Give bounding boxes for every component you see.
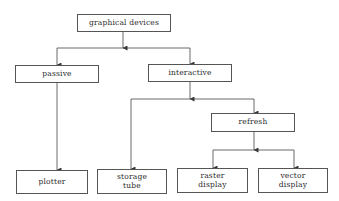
node-storage-tube: storage tube (97, 169, 167, 194)
node-vector-display: vector display (258, 168, 328, 193)
node-raster-display: raster display (177, 168, 248, 193)
node-graphical-devices: graphical devices (77, 14, 171, 32)
node-refresh: refresh (211, 113, 295, 132)
node-passive: passive (15, 65, 99, 83)
node-plotter: plotter (16, 170, 88, 194)
node-interactive: interactive (148, 64, 232, 82)
